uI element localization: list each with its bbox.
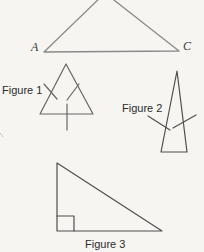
vertex-label-a: A — [31, 41, 38, 53]
geometry-worksheet-diagram: A C Figure 1 Figure 2 Figure 3 — [0, 0, 204, 252]
figure1-label: Figure 1 — [2, 84, 42, 97]
figure2-label: Figure 2 — [122, 102, 162, 115]
large-triangle-ac — [44, 0, 179, 52]
figure2-outline — [161, 71, 187, 152]
figure2-right-side-tick — [173, 115, 196, 128]
figure1-right-side-tick — [67, 84, 79, 100]
figure3-outline — [57, 163, 162, 231]
vertex-label-c: C — [183, 40, 191, 52]
diagram-canvas — [0, 0, 204, 252]
figure3-right-angle-marker — [57, 216, 74, 231]
figure1-triangle — [40, 64, 93, 130]
figure3-label: Figure 3 — [85, 238, 125, 251]
scan-artifact — [0, 133, 3, 137]
figure3-triangle — [57, 163, 162, 231]
